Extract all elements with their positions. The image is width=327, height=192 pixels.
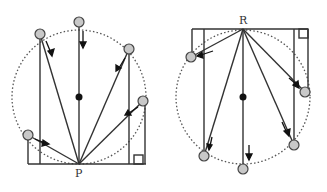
right-diagram xyxy=(176,29,310,174)
left-chord-2 xyxy=(79,49,129,164)
arrow-icon xyxy=(197,51,299,160)
left-diagram xyxy=(12,17,148,164)
point-label-r: R xyxy=(239,15,247,26)
point-label-p: P xyxy=(75,168,82,179)
right-angle-marker xyxy=(299,29,308,38)
center-dot xyxy=(240,94,247,101)
center-dot xyxy=(76,94,83,101)
right-chord-3 xyxy=(204,29,243,156)
arrow-icon xyxy=(35,31,138,146)
right-angle-marker xyxy=(134,155,143,164)
diagram-canvas xyxy=(0,0,327,192)
